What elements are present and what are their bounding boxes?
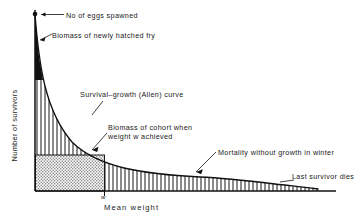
annotation-cohort-biomass-line1: Biomass of cohort when — [108, 123, 192, 132]
annotation-cohort-biomass-line2: weight w achieved — [108, 132, 173, 141]
leader-line-fry — [40, 34, 52, 40]
arrowhead-eggs — [41, 13, 46, 17]
x-axis-label: Mean weight — [104, 203, 159, 212]
leader-line-allen-curve — [92, 101, 103, 115]
arrowhead-mortality — [196, 169, 203, 174]
eggs-spawned-marker — [33, 12, 38, 17]
annotation-hatched-fry: Biomass of newly hatched fry — [52, 31, 155, 40]
annotation-allen-curve: Survival–growth (Allen) curve — [80, 90, 184, 99]
x-axis-tick-label-w: w — [101, 194, 105, 200]
leader-line-biomass — [92, 133, 107, 150]
y-axis-label: Number of survivors — [10, 71, 19, 181]
leader-line-mortality — [196, 152, 216, 172]
allen-curve-figure: No of eggs spawned Biomass of newly hatc… — [0, 0, 356, 221]
annotation-eggs-spawned: No of eggs spawned — [66, 11, 138, 20]
biomass-rectangle-fill — [36, 155, 105, 191]
annotation-last-survivor: Last survivor dies — [292, 172, 354, 181]
annotation-winter-mortality: Mortality without growth in winter — [218, 148, 334, 157]
